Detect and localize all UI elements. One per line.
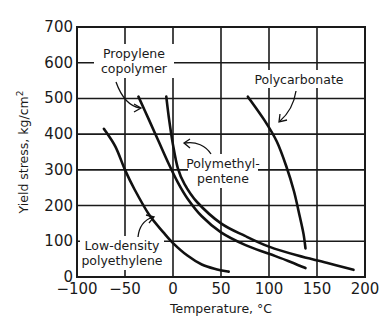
y-tick-label: 400 bbox=[44, 125, 73, 143]
x-tick-label: 0 bbox=[168, 280, 178, 298]
y-tick-label: 600 bbox=[44, 54, 73, 72]
annotation-text: Polymethyl- bbox=[186, 156, 260, 171]
y-tick-label: 200 bbox=[44, 197, 73, 215]
x-tick-label: 100 bbox=[255, 280, 284, 298]
x-tick-label: −50 bbox=[109, 280, 141, 298]
x-axis-title: Temperature, °C bbox=[169, 301, 272, 316]
annotation-text: polyethylene bbox=[81, 253, 162, 268]
annotation-text: Polycarbonate bbox=[254, 72, 343, 87]
svg-text:Yield stress, kg/cm2: Yield stress, kg/cm2 bbox=[15, 91, 31, 215]
arrow-icon bbox=[280, 91, 296, 121]
y-tick-label: 300 bbox=[44, 161, 73, 179]
arrow-icon bbox=[116, 82, 140, 108]
annotation-text: Propylene bbox=[103, 46, 165, 61]
y-tick-label: 500 bbox=[44, 89, 73, 107]
annotation-polycarbonate: Polycarbonate bbox=[254, 70, 344, 122]
annotation-text: Low-density bbox=[85, 238, 161, 253]
annotation-ldpe: Low-density polyethylene bbox=[80, 215, 164, 270]
y-tick-label: 700 bbox=[44, 18, 73, 36]
arrow-icon bbox=[185, 143, 211, 154]
y-tick-label: 0 bbox=[63, 268, 73, 286]
annotation-text: pentene bbox=[197, 171, 249, 186]
annotation-propylene-copolymer: Propylene copolymer bbox=[94, 44, 174, 112]
y-axis-title-text: Yield stress, kg/cm bbox=[16, 96, 31, 214]
y-axis-title: Yield stress, kg/cm2 bbox=[15, 91, 31, 215]
x-tick-label: 150 bbox=[303, 280, 332, 298]
y-axis-title-superscript: 2 bbox=[15, 91, 25, 97]
annotation-polymethylpentene: Polymethyl- pentene bbox=[184, 139, 260, 188]
arrow-head-icon bbox=[184, 139, 190, 148]
y-tick-label: 100 bbox=[44, 232, 73, 250]
annotation-text: copolymer bbox=[101, 61, 168, 76]
x-tick-label: 50 bbox=[211, 280, 230, 298]
yield-stress-chart: −100−50050100150200010020030040050060070… bbox=[0, 0, 392, 325]
arrow-head-icon bbox=[146, 215, 154, 223]
x-tick-label: 200 bbox=[351, 280, 380, 298]
